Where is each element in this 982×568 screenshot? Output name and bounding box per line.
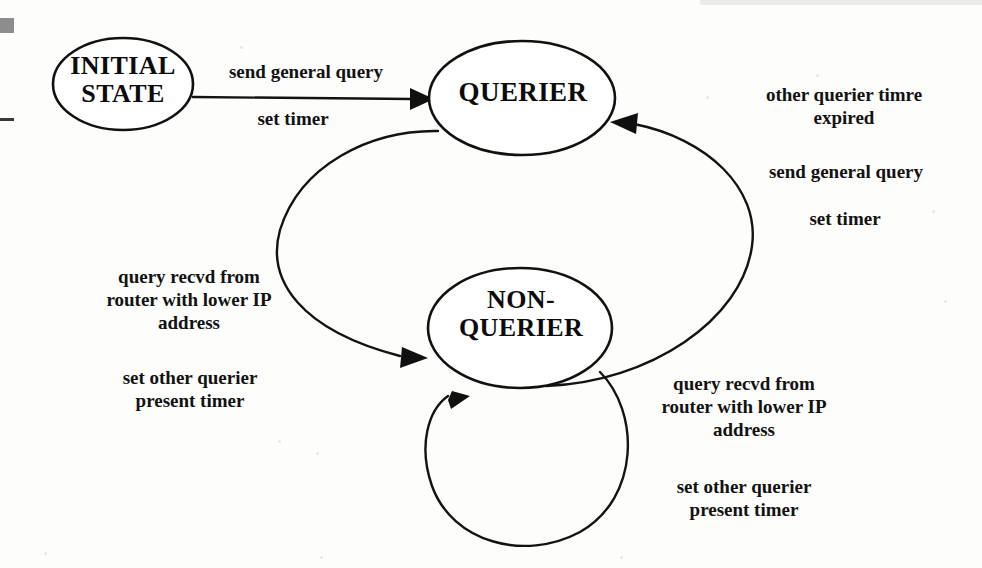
edge-label-set-timer-top: set timer [222, 107, 364, 130]
node-querier[interactable] [429, 41, 615, 155]
edge-label-set-timer-right: set timer [774, 207, 916, 230]
edge-label-set-other-querier-present-timer-right: set other querier present timer [624, 475, 864, 521]
node-non-querier[interactable] [428, 268, 612, 388]
state-diagram-page: INITIAL STATE QUERIER NON- QUERIER send … [0, 0, 982, 568]
node-initial-state[interactable] [53, 38, 193, 130]
edge-label-query-recvd-right: query recvd from router with lower IP ad… [620, 372, 868, 442]
edge-label-query-recvd-left: query recvd from router with lower IP ad… [68, 265, 310, 335]
edge-label-set-other-querier-present-timer-left: set other querier present timer [72, 366, 308, 412]
edge-label-send-general-query-top: send general query [198, 60, 414, 83]
edge-initial-to-querier [193, 97, 412, 99]
edge-label-other-querier-timre-expired: other querier timre expired [728, 83, 960, 129]
edge-label-send-general-query-right: send general query [740, 160, 952, 183]
arrowhead-querier-to-non-querier [400, 347, 428, 368]
arrowhead-non-querier-to-querier [610, 113, 638, 134]
arrowhead-self-loop [448, 391, 470, 409]
